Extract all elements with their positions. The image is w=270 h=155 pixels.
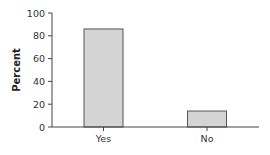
y-tick-label: 0 bbox=[39, 122, 45, 133]
y-tick-label: 100 bbox=[27, 8, 45, 19]
x-axis: YesNo bbox=[52, 127, 259, 144]
x-tick-label: No bbox=[201, 133, 214, 144]
bar-no bbox=[188, 111, 227, 127]
x-tick-label: Yes bbox=[95, 133, 111, 144]
y-axis-label: Percent bbox=[11, 48, 22, 92]
y-tick-label: 80 bbox=[33, 30, 45, 41]
bars bbox=[84, 29, 227, 127]
chart-canvas: 020406080100 YesNo Percent bbox=[0, 0, 270, 155]
y-axis: 020406080100 bbox=[27, 8, 52, 133]
y-tick-label: 20 bbox=[33, 99, 45, 110]
bar-chart: 020406080100 YesNo Percent bbox=[0, 0, 270, 155]
y-tick-label: 60 bbox=[33, 53, 45, 64]
bar-yes bbox=[84, 29, 123, 127]
y-tick-label: 40 bbox=[33, 76, 45, 87]
